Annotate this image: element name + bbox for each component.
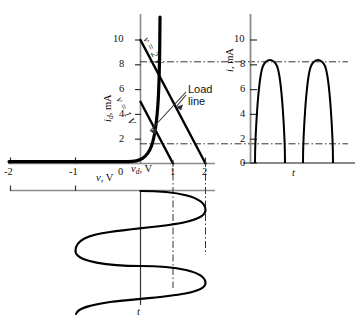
iv-xtick-neg2: -2 <box>4 166 13 177</box>
wave-t-axis-label: t <box>292 167 295 178</box>
iv-xtick-neg1: -1 <box>69 166 78 177</box>
input-v-axis-label: v, V <box>96 172 113 183</box>
load-line-annotation-line1: Load <box>188 84 212 96</box>
iv-xtick-1: 1 <box>170 166 175 177</box>
iv-xtick-2: 2 <box>202 166 207 177</box>
iv-y-axis-label: id, mA <box>102 94 115 122</box>
wave-ytick-4: 4 <box>240 108 245 119</box>
current-pulse-1 <box>255 60 285 163</box>
diode-load-line-figure <box>0 0 360 331</box>
input-t-axis-label: t <box>137 306 140 317</box>
wave-ytick-6: 6 <box>240 83 245 94</box>
iv-x-axis-label: vd, V <box>131 163 152 176</box>
iv-ytick-6: 6 <box>119 83 124 94</box>
iv-ytick-10: 10 <box>113 33 124 44</box>
wave-ytick-8: 8 <box>240 58 245 69</box>
load-line-annotation-arrows <box>150 92 186 131</box>
current-pulse-2 <box>303 60 333 163</box>
iv-ytick-8: 8 <box>119 58 124 69</box>
wave-ytick-10: 10 <box>234 33 245 44</box>
wave-ytick-2: 2 <box>240 133 245 144</box>
wave-ytick-0: 0 <box>240 157 245 168</box>
iv-ytick-2: 2 <box>119 133 124 144</box>
wave-y-axis-label: i, mA <box>224 48 235 72</box>
iv-xtick-0: 0 <box>118 166 123 177</box>
load-line-annotation-line2: line <box>188 96 205 108</box>
